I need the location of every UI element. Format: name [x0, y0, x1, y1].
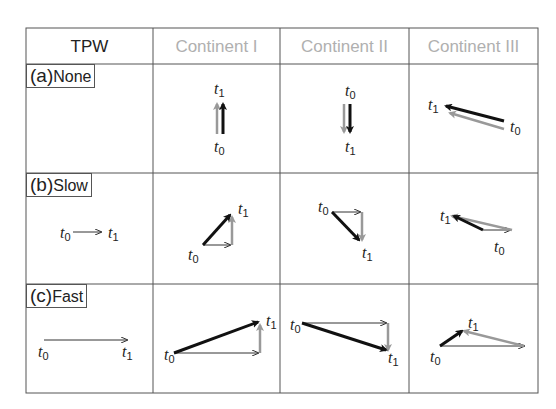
row-prefix: (b) — [30, 174, 53, 195]
label-t1: t1 — [108, 224, 119, 243]
label-t1: t1 — [388, 349, 399, 368]
label-t1: t1 — [428, 96, 439, 115]
row-label: Slow — [53, 177, 88, 194]
label-t0: t0 — [430, 348, 441, 367]
row-label-none: (a)None — [26, 64, 95, 88]
label-t1: t1 — [238, 200, 249, 219]
label-t1: t1 — [122, 343, 133, 362]
row-label: None — [53, 68, 91, 85]
row-label: Fast — [52, 288, 83, 305]
label-t0: t0 — [494, 238, 505, 257]
label-t0: t0 — [188, 246, 199, 265]
label-t0: t0 — [60, 224, 71, 243]
header-tpw: TPW — [26, 30, 153, 64]
row-prefix: (c) — [30, 285, 52, 306]
row-prefix: (a) — [30, 65, 53, 86]
label-t1: t1 — [345, 138, 356, 157]
label-t0: t0 — [290, 316, 301, 335]
label-t0: t0 — [38, 343, 49, 362]
label-t1: t1 — [362, 244, 373, 263]
label-t0: t0 — [318, 198, 329, 217]
header-continent-2: Continent II — [280, 30, 409, 64]
label-t0: t0 — [345, 82, 356, 101]
header-continent-3: Continent III — [409, 30, 538, 64]
label-t1: t1 — [266, 312, 277, 331]
label-t1: t1 — [440, 207, 451, 226]
label-t1: t1 — [468, 314, 479, 333]
label-t1: t1 — [214, 80, 225, 99]
label-t0: t0 — [510, 118, 521, 137]
label-t0: t0 — [214, 138, 225, 157]
label-t0: t0 — [164, 346, 175, 365]
header-continent-1: Continent I — [153, 30, 280, 64]
row-label-fast: (c)Fast — [26, 284, 87, 308]
row-c-arrows — [44, 322, 524, 353]
row-a-arrows — [217, 104, 504, 134]
table-grid — [26, 28, 538, 393]
row-label-slow: (b)Slow — [26, 173, 92, 197]
